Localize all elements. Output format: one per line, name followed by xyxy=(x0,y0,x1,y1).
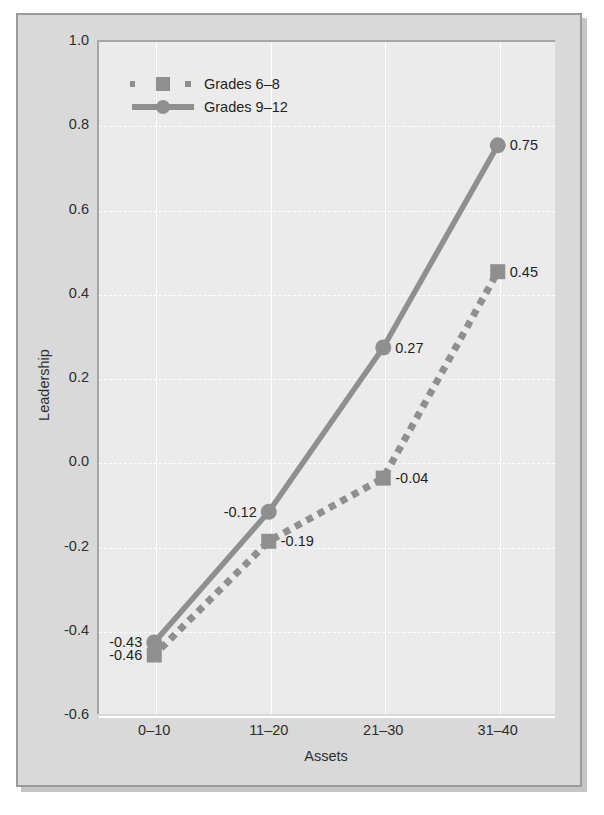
y-tick-label: 1.0 xyxy=(29,32,89,48)
y-tick-label: -0.2 xyxy=(29,538,89,554)
legend-label: Grades 9–12 xyxy=(204,99,288,115)
data-point-value-label: 0.75 xyxy=(510,137,538,153)
legend-item[interactable]: Grades 6–8 xyxy=(130,73,320,94)
data-point-value-label: -0.19 xyxy=(281,533,314,549)
axis-line-bottom xyxy=(99,716,555,718)
x-axis-ticks: 0–1011–2021–3031–40 xyxy=(97,722,555,744)
x-tick-label: 11–20 xyxy=(249,722,288,738)
y-tick-label: 0.8 xyxy=(29,116,89,132)
x-tick-label: 31–40 xyxy=(478,722,518,738)
data-point-value-label: -0.04 xyxy=(395,470,428,486)
data-point-value-label: 0.45 xyxy=(510,264,538,280)
legend-item[interactable]: Grades 9–12 xyxy=(130,96,320,117)
y-tick-label: -0.6 xyxy=(29,706,89,722)
y-tick-label: 0.6 xyxy=(29,201,89,217)
data-point-value-label: -0.12 xyxy=(224,504,257,520)
line-chart: 1.00.80.60.40.20.0-0.2-0.4-0.6 0–1011–20… xyxy=(18,15,580,785)
y-axis-title: Leadership xyxy=(36,315,52,455)
legend: Grades 6–8Grades 9–12 xyxy=(130,73,320,119)
x-tick-label: 0–10 xyxy=(138,722,170,738)
data-point-value-label: -0.43 xyxy=(109,634,142,650)
x-tick-label: 21–30 xyxy=(363,722,403,738)
legend-label: Grades 6–8 xyxy=(204,76,280,92)
legend-solid-circle-icon xyxy=(130,99,196,115)
y-tick-label: 0.4 xyxy=(29,285,89,301)
figure-frame: 1.00.80.60.40.20.0-0.2-0.4-0.6 0–1011–20… xyxy=(16,13,582,787)
legend-dotted-square-icon xyxy=(130,76,196,92)
x-axis-title: Assets xyxy=(97,748,555,764)
point-value-labels: -0.46-0.19-0.040.45-0.43-0.120.270.75 xyxy=(97,40,555,714)
data-point-value-label: 0.27 xyxy=(395,340,423,356)
y-tick-label: 0.0 xyxy=(29,453,89,469)
y-tick-label: -0.4 xyxy=(29,622,89,638)
